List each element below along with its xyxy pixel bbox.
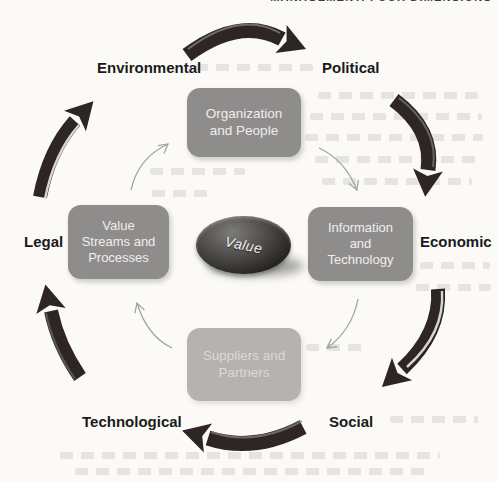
factor-label-environmental: Environmental [97,59,201,76]
factor-label-legal: Legal [24,233,63,250]
page-bleedthrough-texture [60,452,440,459]
value-ellipse: Value [196,216,291,274]
book-page-diagram: MANAGEMENT: FOUR DIMENSIONS [0,0,498,481]
page-bleedthrough-texture [152,190,212,197]
outer-arrow-lower-left-icon [31,281,80,379]
factor-label-economic: Economic [420,233,492,250]
dimension-box-organization-and-people: Organization and People [187,88,301,157]
page-bleedthrough-texture [420,262,490,269]
inner-arrow-upper-left-icon [131,140,171,190]
factor-label-social: Social [329,413,373,430]
outer-arrow-bottom-icon [178,416,303,452]
dimension-box-value-streams-and-processes: Value Streams and Processes [68,205,169,279]
page-bleedthrough-texture [305,134,483,141]
page-bleedthrough-texture [306,344,364,351]
page-bleedthrough-texture [310,113,482,120]
value-label: Value [223,233,263,257]
page-bleedthrough-texture [150,168,245,175]
outer-arrow-top-icon [187,24,312,63]
outer-arrow-lower-right-icon [372,289,442,398]
inner-arrow-upper-right-icon [319,148,362,192]
page-bleedthrough-texture [322,178,472,185]
factor-label-technological: Technological [82,413,182,430]
factor-label-political: Political [322,59,380,76]
page-bleedthrough-texture [195,64,313,71]
page-bleedthrough-texture [318,92,478,99]
dimension-box-suppliers-and-partners: Suppliers and Partners [187,328,301,401]
outer-arrow-upper-left-icon [40,91,104,199]
dimension-box-information-and-technology: Information and Technology [308,207,413,281]
page-bleedthrough-texture [315,156,480,163]
page-header-fragment: MANAGEMENT: FOUR DIMENSIONS [270,0,492,3]
page-bleedthrough-texture [75,468,425,475]
page-bleedthrough-texture [390,416,478,423]
inner-arrow-lower-left-icon [132,302,172,348]
page-bleedthrough-texture [416,284,491,291]
